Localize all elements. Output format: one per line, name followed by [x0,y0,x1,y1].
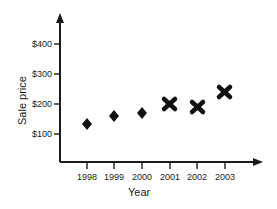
y-axis-title: Sale price [16,76,28,125]
data-point-1999 [109,110,119,122]
y-tick-label-400: $400 [20,39,52,49]
y-tick-label-100: $100 [20,129,52,139]
x-tick-label-2000: 2000 [127,172,157,182]
data-point-2001 [164,99,175,109]
data-point-1998 [82,118,92,130]
x-axis-arrow-icon [253,158,263,166]
x-tick-label-2002: 2002 [182,172,212,182]
y-axis-arrow-icon [56,13,64,23]
x-tick-label-1999: 1999 [99,172,129,182]
x-tick-label-2001: 2001 [155,172,185,182]
data-point-2002 [192,102,203,112]
data-point-2000 [137,107,147,119]
x-axis-title: Year [128,186,150,198]
scatter-chart: $400 $300 $200 $100 1998 1999 2000 2001 … [0,0,277,209]
x-tick-label-1998: 1998 [72,172,102,182]
x-tick-label-2003: 2003 [210,172,240,182]
data-point-2003 [219,87,230,97]
